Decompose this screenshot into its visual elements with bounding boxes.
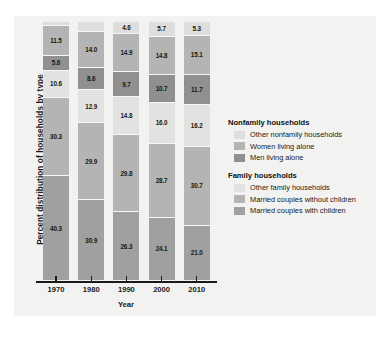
x-axis-tick [55, 276, 56, 283]
legend-item[interactable]: Other nonfamily households [234, 130, 378, 139]
x-tick-label-1970: 1970 [39, 285, 73, 294]
bar-value-label: 29.8 [120, 170, 132, 177]
bar-value-label: 9.7 [122, 81, 130, 88]
bar-value-label: 14.9 [120, 49, 132, 56]
x-axis-tick [161, 276, 162, 283]
legend-label: Women living alone [250, 142, 314, 151]
bar-segment[interactable]: 30.3 [43, 98, 69, 176]
bar-segment[interactable]: 21.0 [184, 226, 210, 280]
bar-value-label: 29.9 [85, 158, 97, 165]
bar-segment[interactable]: 16.2 [184, 105, 210, 147]
bar-segment[interactable]: 4.6 [113, 22, 139, 34]
legend-heading: Family households [228, 171, 378, 180]
x-tick-label-1990: 1990 [109, 285, 143, 294]
bar-value-label: 40.3 [50, 225, 62, 232]
legend-item[interactable]: Other family households [234, 183, 378, 192]
bar-segment[interactable]: 14.8 [113, 97, 139, 135]
bar-segment[interactable]: 40.3 [43, 176, 69, 280]
bar-value-label: 14.8 [156, 52, 168, 59]
bar-segment[interactable]: 5.3 [184, 22, 210, 36]
bar-value-label: 21.0 [191, 249, 203, 256]
legend-swatch-icon [234, 154, 245, 162]
x-axis-tick [196, 276, 197, 283]
bar-value-label: 5.6 [52, 59, 60, 66]
bar-segment[interactable]: 30.7 [184, 147, 210, 226]
bar-group-2010[interactable]: 5.315.111.716.230.721.0 [184, 22, 210, 280]
bar-segment[interactable]: 9.7 [113, 72, 139, 97]
bar-segment[interactable]: 3.6 [78, 22, 104, 31]
x-tick-label-2000: 2000 [145, 285, 179, 294]
legend-label: Married couples without children [250, 195, 356, 204]
stacked-bar: 5.315.111.716.230.721.0 [184, 22, 210, 280]
bar-value-label: 14.0 [85, 46, 97, 53]
chart-legend: Nonfamily householdsOther nonfamily hous… [228, 118, 378, 218]
legend-item[interactable]: Married couples with children [234, 206, 378, 215]
bar-segment[interactable]: 14.0 [78, 32, 104, 68]
bar-value-label: 26.3 [120, 243, 132, 250]
bar-segment[interactable]: 28.7 [149, 144, 175, 218]
bar-value-label: 10.6 [50, 80, 62, 87]
bar-value-label: 16.0 [156, 119, 168, 126]
legend-swatch-icon [234, 184, 245, 192]
bar-segment[interactable]: 16.0 [149, 103, 175, 144]
bar-group-2000[interactable]: 5.714.810.716.028.724.1 [149, 22, 175, 280]
bar-group-1980[interactable]: 3.614.08.612.929.930.9 [78, 22, 104, 280]
bar-value-label: 14.8 [120, 112, 132, 119]
bar-segment[interactable]: 24.1 [149, 218, 175, 280]
legend-item[interactable]: Women living alone [234, 142, 378, 151]
bar-segment[interactable]: 29.9 [78, 123, 104, 200]
bar-group-1990[interactable]: 4.614.99.714.829.826.3 [113, 22, 139, 280]
bar-group-1970[interactable]: 1.711.55.610.630.340.3 [43, 22, 69, 280]
legend-swatch-icon [234, 195, 245, 203]
bar-value-label: 5.7 [157, 25, 165, 32]
legend-swatch-icon [234, 131, 245, 139]
bar-segment[interactable]: 26.3 [113, 212, 139, 280]
bar-value-label: 11.7 [191, 86, 203, 93]
bar-value-label: 4.6 [122, 24, 130, 31]
bar-segment[interactable]: 14.9 [113, 34, 139, 72]
bar-value-label: 28.7 [156, 177, 168, 184]
bar-value-label: 12.9 [85, 103, 97, 110]
stacked-bar: 5.714.810.716.028.724.1 [149, 22, 175, 280]
bar-segment[interactable]: 10.7 [149, 75, 175, 103]
bar-segment[interactable]: 11.7 [184, 75, 210, 105]
bar-value-label: 24.1 [156, 245, 168, 252]
bar-value-label: 11.5 [50, 37, 62, 44]
x-tick-label-1980: 1980 [74, 285, 108, 294]
bar-value-label: 10.7 [156, 85, 168, 92]
bar-segment[interactable]: 15.1 [184, 36, 210, 75]
stacked-bar: 4.614.99.714.829.826.3 [113, 22, 139, 280]
bar-segment[interactable]: 11.5 [43, 26, 69, 56]
bar-segment[interactable]: 5.7 [149, 22, 175, 37]
legend-swatch-icon [234, 142, 245, 150]
x-axis-tick [126, 276, 127, 283]
bar-value-label: 15.1 [191, 51, 203, 58]
x-axis-tick [91, 276, 92, 283]
bar-value-label: 30.9 [85, 237, 97, 244]
stacked-bar: 1.711.55.610.630.340.3 [43, 22, 69, 280]
bar-value-label: 5.3 [193, 25, 201, 32]
legend-label: Other nonfamily households [250, 130, 342, 139]
chart-figure: Percent distribution of households by ty… [0, 0, 391, 337]
legend-item[interactable]: Men living alone [234, 153, 378, 162]
bar-segment[interactable]: 5.6 [43, 56, 69, 70]
bar-value-label: 8.6 [87, 75, 95, 82]
x-tick-label-2010: 2010 [180, 285, 214, 294]
x-axis-title: Year [38, 300, 214, 309]
stacked-bar: 3.614.08.612.929.930.9 [78, 22, 104, 280]
legend-swatch-icon [234, 207, 245, 215]
legend-item[interactable]: Married couples without children [234, 195, 378, 204]
bar-segment[interactable]: 29.8 [113, 135, 139, 212]
bar-segment[interactable]: 10.6 [43, 71, 69, 98]
bar-segment[interactable]: 14.8 [149, 37, 175, 75]
bar-segment[interactable]: 8.6 [78, 68, 104, 90]
plot-area: 1.711.55.610.630.340.33.614.08.612.929.9… [38, 22, 214, 280]
bar-value-label: 30.7 [191, 182, 203, 189]
legend-label: Married couples with children [250, 206, 346, 215]
bar-segment[interactable]: 12.9 [78, 90, 104, 123]
bar-value-label: 16.2 [191, 122, 203, 129]
bar-segment[interactable]: 30.9 [78, 200, 104, 280]
legend-heading: Nonfamily households [228, 118, 378, 127]
bar-value-label: 30.3 [50, 133, 62, 140]
legend-label: Other family households [250, 183, 330, 192]
